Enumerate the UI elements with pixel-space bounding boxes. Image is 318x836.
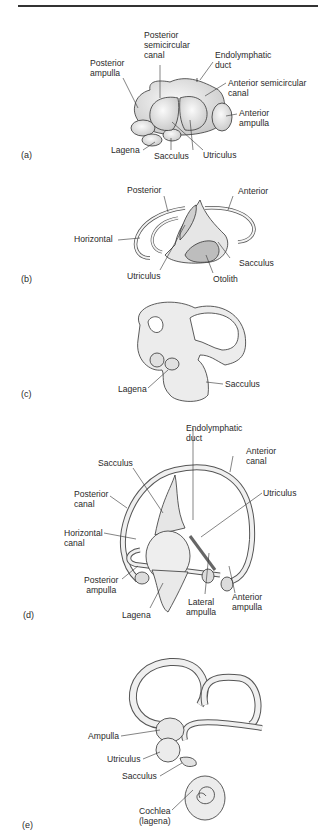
label-sacculus: Sacculus [122,771,157,781]
label-posterior-semicircular-canal: Posterior semicircular canal [144,30,190,60]
label-lagena: Lagena [122,610,151,620]
panel-label-e: (e) [22,820,33,830]
label-otolith: Otolith [213,274,238,284]
panel-c-illustration [0,300,318,420]
label-lateral-ampulla: Lateral ampulla [186,597,216,617]
label-anterior-ampulla: Anterior ampulla [239,108,269,128]
label-sacculus: Sacculus [239,258,274,268]
label-sacculus: Sacculus [98,458,133,468]
label-utriculus: Utriculus [203,150,236,160]
panel-b: Posterior Anterior Horizontal Sacculus U… [0,170,318,290]
label-endolymphatic-duct: Endolymphatic duct [215,50,271,70]
label-ampulla: Ampulla [88,731,119,741]
label-anterior-canal: Anterior canal [246,446,276,466]
panel-label-b: (b) [21,274,32,284]
label-posterior-ampulla: Posterior ampulla [90,58,124,78]
label-anterior-semicircular-canal: Anterior semicircular canal [228,78,306,98]
panel-d-illustration [0,440,318,640]
label-posterior: Posterior [127,185,161,195]
panel-d: Endolymphatic duct Anterior canal Saccul… [0,440,318,640]
panel-label-d: (d) [23,610,34,620]
panel-c: Lagena Sacculus (c) [0,300,318,420]
panel-e: Ampulla Utriculus Sacculus Cochlea (lage… [0,650,318,836]
label-lagena: Lagena [111,145,140,155]
label-sacculus: Sacculus [225,379,260,389]
panel-a: Posterior semicircular canal Posterior a… [0,0,318,165]
label-posterior-ampulla: Posterior ampulla [84,575,118,595]
label-utriculus: Utriculus [127,271,160,281]
label-lagena: Lagena [118,384,147,394]
label-utriculus: Utriculus [107,754,140,764]
panel-label-a: (a) [21,150,32,160]
label-anterior-ampulla: Anterior ampulla [232,592,262,612]
label-utriculus: Utriculus [263,488,296,498]
panel-label-c: (c) [21,389,32,399]
label-cochlea: Cochlea (lagena) [139,806,171,826]
label-anterior: Anterior [238,186,268,196]
label-posterior-canal: Posterior canal [74,489,108,509]
label-horizontal: Horizontal [74,234,113,244]
label-sacculus: Sacculus [154,151,189,161]
label-horizontal-canal: Horizontal canal [64,528,103,548]
label-endolymphatic-duct: Endolymphatic duct [186,423,242,443]
